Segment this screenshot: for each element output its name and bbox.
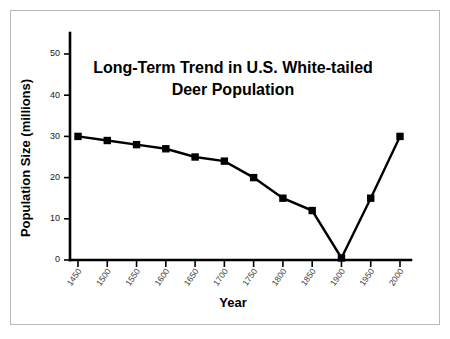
data-point-marker <box>162 145 169 152</box>
x-axis-tick-group: 1450150015501600165017001750180018501900… <box>65 260 406 288</box>
x-tick-label: 1500 <box>94 266 113 287</box>
data-point-marker <box>367 195 374 202</box>
data-point-marker <box>191 153 198 160</box>
x-tick-label: 1700 <box>211 266 230 287</box>
data-point-marker <box>133 141 140 148</box>
data-point-marker <box>279 195 286 202</box>
y-axis-tick-group: 01020304050 <box>50 48 70 264</box>
y-tick-label: 0 <box>55 254 60 264</box>
data-point-marker <box>308 207 315 214</box>
y-tick-label: 20 <box>50 172 60 182</box>
data-point-marker <box>104 137 111 144</box>
series-polyline <box>78 136 400 258</box>
y-tick-label: 30 <box>50 131 60 141</box>
x-tick-label: 1900 <box>328 266 347 287</box>
data-series-group <box>74 133 403 262</box>
x-tick-label: 1950 <box>357 266 376 287</box>
x-tick-label: 1650 <box>182 266 201 287</box>
chart-title-line-1: Long-Term Trend in U.S. White-tailed <box>93 59 373 76</box>
y-tick-label: 10 <box>50 213 60 223</box>
x-tick-label: 2000 <box>387 266 406 287</box>
x-tick-label: 1850 <box>299 266 318 287</box>
x-tick-label: 1750 <box>240 266 259 287</box>
x-tick-label: 1450 <box>65 266 84 287</box>
slide-canvas: Long-Term Trend in U.S. White-tailed Dee… <box>0 0 450 339</box>
x-axis-title: Year <box>219 295 246 310</box>
data-point-marker <box>338 254 345 261</box>
x-tick-label: 1550 <box>123 266 142 287</box>
data-point-marker <box>396 133 403 140</box>
y-axis-title: Population Size (millions) <box>18 79 33 237</box>
data-point-marker <box>74 133 81 140</box>
data-point-marker <box>250 174 257 181</box>
x-tick-label: 1800 <box>270 266 289 287</box>
y-tick-label: 50 <box>50 48 60 58</box>
chart-title-line-2: Deer Population <box>172 81 295 98</box>
data-point-marker <box>221 157 228 164</box>
x-tick-label: 1600 <box>152 266 171 287</box>
deer-population-line-chart: Long-Term Trend in U.S. White-tailed Dee… <box>0 0 450 339</box>
y-tick-label: 40 <box>50 90 60 100</box>
